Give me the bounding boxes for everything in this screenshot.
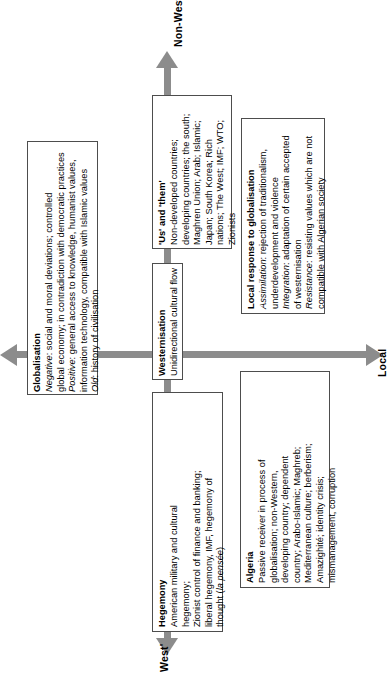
box-us-and-them-content: 'Us' and 'them' Non-developed countries;… xyxy=(157,97,239,245)
box-globalisation-line-3: Positive: general access to knowledge, h… xyxy=(67,146,79,392)
box-local-response-line-3: Integration: adaptation of certain accep… xyxy=(281,121,293,309)
box-us-and-them-line-5: nations; The West; IMF; WTO; xyxy=(215,97,227,245)
box-algeria-title: Algeria xyxy=(245,373,257,583)
box-globalisation-line-4: information technology, compatible with … xyxy=(79,146,91,392)
box-globalisation[interactable]: Globalisation Negative: social and moral… xyxy=(27,141,98,395)
box-algeria-line-5: Mediterranean culture; berberism; xyxy=(303,373,315,583)
box-hegemony-line-4: liberal hegemony, IMF, hegemony of xyxy=(204,395,216,627)
box-us-and-them-line-6: Zionists xyxy=(227,97,239,245)
box-hegemony-title: Hegemony xyxy=(157,395,169,627)
box-algeria[interactable]: Algeria Passive receiver in process of g… xyxy=(240,371,330,588)
box-algeria-line-6: Amazighité; identity crisis; xyxy=(315,373,327,583)
box-us-and-them-title: 'Us' and 'them' xyxy=(157,97,169,245)
box-hegemony-line-3: Zionist control of finance and banking; xyxy=(192,395,204,627)
horizontal-axis-left-arrowhead xyxy=(0,344,17,366)
box-us-and-them-line-1: Non-developed countries; xyxy=(169,97,181,245)
box-local-response-title: Local response to globalisation xyxy=(246,121,258,309)
box-globalisation-line-2: global economy; in contradiction with de… xyxy=(56,146,68,392)
box-local-response-line-6: compatible with Algerian society xyxy=(316,121,328,309)
box-globalisation-title: Globalisation xyxy=(32,146,44,392)
box-hegemony[interactable]: Hegemony American military and cultural … xyxy=(152,392,223,632)
box-us-and-them-line-2: developing countries; the south; xyxy=(181,97,193,245)
box-westernisation-content: Westernisation Unidirectional cultural f… xyxy=(157,266,181,376)
box-local-response[interactable]: Local response to globalisation Assimila… xyxy=(241,118,325,314)
box-us-and-them[interactable]: 'Us' and 'them' Non-developed countries;… xyxy=(152,95,232,249)
box-local-response-content: Local response to globalisation Assimila… xyxy=(246,121,328,309)
box-local-response-line-2: underdevelopment and violence xyxy=(270,121,282,309)
box-hegemony-line-1: American military and cultural xyxy=(169,395,181,627)
box-algeria-line-4: country; Arabo-Islamic; Maghreb; xyxy=(292,373,304,583)
box-westernisation[interactable]: Westernisation Unidirectional cultural f… xyxy=(152,263,183,380)
box-local-response-line-1: Assimilation: rejection of traditionalis… xyxy=(258,121,270,309)
box-us-and-them-line-3: Maghren Union; Arab; Islamic; xyxy=(192,97,204,245)
box-westernisation-title: Westernisation xyxy=(157,266,169,376)
axis-label-local: Local xyxy=(376,349,388,377)
box-globalisation-line-5: Old: history of civilisation xyxy=(90,146,102,392)
box-algeria-line-3: developing country; dependent xyxy=(280,373,292,583)
box-globalisation-line-1: Negative: social and moral deviations; c… xyxy=(44,146,56,392)
box-algeria-line-2: globalisation; non-Western, xyxy=(269,373,281,583)
box-algeria-content: Algeria Passive receiver in process of g… xyxy=(245,373,338,583)
box-globalisation-content: Globalisation Negative: social and moral… xyxy=(32,146,102,392)
vertical-axis-up-arrowhead xyxy=(156,51,178,68)
box-hegemony-line-2: hegemony; xyxy=(181,395,193,627)
box-hegemony-content: Hegemony American military and cultural … xyxy=(157,395,227,627)
box-algeria-line-1: Passive receiver in process of xyxy=(257,373,269,583)
box-local-response-line-4: of westernisation xyxy=(293,121,305,309)
box-hegemony-line-5: thought (la pensée) xyxy=(215,395,227,627)
box-local-response-line-5: Resistance: resisting values which are n… xyxy=(304,121,316,309)
box-algeria-line-7: mismanagement, corruption xyxy=(327,373,339,583)
box-westernisation-line-1: Unidirectional cultural flow xyxy=(169,266,181,376)
axis-label-west: West' xyxy=(158,644,170,672)
diagram-canvas: Non-West Local West' Globalisation Negat… xyxy=(0,0,390,674)
axis-label-non-west: Non-West xyxy=(172,0,184,47)
box-us-and-them-line-4: Japan; South Korea; Rich xyxy=(204,97,216,245)
